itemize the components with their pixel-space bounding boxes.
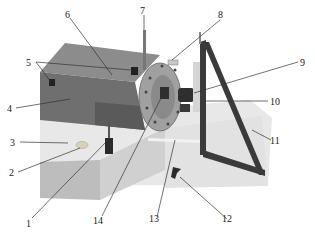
base-front-left-face <box>40 160 100 200</box>
label-14: 14 <box>93 215 103 226</box>
label-4: 4 <box>7 103 12 114</box>
label-9: 9 <box>300 57 305 68</box>
label-13: 13 <box>149 213 159 224</box>
vertical-rod <box>143 30 146 70</box>
label-6: 6 <box>65 9 70 20</box>
label-1: 1 <box>26 218 31 229</box>
label-8: 8 <box>218 9 223 20</box>
apparatus-diagram: 1 2 3 4 5 6 7 8 9 10 11 12 13 14 <box>0 0 315 232</box>
label-12: 12 <box>222 213 232 224</box>
label-10: 10 <box>270 96 280 107</box>
label-7: 7 <box>140 5 145 16</box>
label-2: 2 <box>9 167 14 178</box>
sensor-5b <box>131 67 138 75</box>
component-2-disc <box>76 142 88 149</box>
label-5: 5 <box>26 57 31 68</box>
label-3: 3 <box>10 137 15 148</box>
label-11: 11 <box>270 135 280 146</box>
bracket-top <box>168 60 178 65</box>
